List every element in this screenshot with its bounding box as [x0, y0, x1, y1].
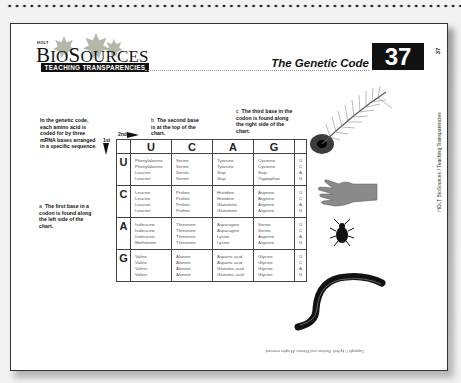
note-a: aThe first base in a codon is found alon…	[39, 203, 95, 229]
transparency-page: HOLT BIOSOURCES TEACHING TRANSPARENCIES …	[10, 23, 448, 371]
beetle-image	[328, 219, 356, 247]
first-base: A	[117, 218, 131, 250]
second-base-arrow: 2nd	[118, 131, 139, 138]
first-base-arrow: 1st	[103, 137, 110, 143]
series-label: TEACHING TRANSPARENCIES	[41, 63, 149, 72]
first-base: C	[117, 186, 131, 218]
peacock-feather-image	[308, 84, 400, 164]
arrow-right-icon	[127, 132, 139, 138]
header-row: U C A G	[117, 140, 307, 154]
table-row: U PhenylalaninePhenylalanineLeucineLeuci…	[117, 154, 307, 186]
table-row: A IsoleucineIsoleucineIsoleucineMethioni…	[117, 218, 307, 250]
earthworm-image	[286, 259, 386, 334]
note-c: cThe third base in the codon is found al…	[236, 108, 296, 134]
title-rule	[145, 70, 369, 71]
second-base-C: C	[172, 140, 213, 154]
table-row: G ValineValineValineValine AlanineAlanin…	[117, 250, 307, 282]
second-base-G: G	[254, 140, 295, 154]
first-base: G	[117, 250, 131, 282]
second-base-U: U	[131, 140, 172, 154]
second-base-A: A	[213, 140, 254, 154]
arrow-down-icon	[103, 143, 109, 155]
biosources-logo: HOLT BIOSOURCES TEACHING TRANSPARENCIES	[31, 33, 149, 75]
side-label: 37 HOLT BioSources / Teaching Transparen…	[432, 48, 446, 238]
table-row: C LeucineLeucineLeucineLeucine ProlinePr…	[117, 186, 307, 218]
note-b: bThe second base is at the top of the ch…	[151, 117, 203, 137]
genetic-code-table: U C A G U PhenylalaninePhenylalanineLeuc…	[116, 139, 307, 282]
transparency-number: 37	[372, 43, 424, 70]
copyright-footer: Copyright © by Holt, Rinehart and Winsto…	[265, 349, 364, 353]
perforation-dots	[6, 4, 461, 8]
first-base: U	[117, 154, 131, 186]
page-title: The Genetic Code	[261, 57, 369, 69]
intro-note: In the genetic code, each amino acid is …	[40, 117, 98, 150]
human-hand-image	[317, 176, 379, 208]
